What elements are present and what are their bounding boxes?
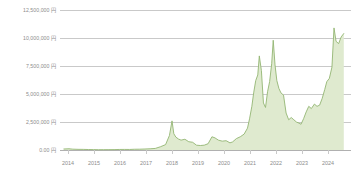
y-tick-label: 7,500,000 円 (0, 63, 56, 69)
x-tick (250, 150, 251, 154)
x-tick (198, 150, 199, 154)
x-tick-label: 2022 (264, 160, 288, 167)
x-tick-label: 2015 (82, 160, 106, 167)
y-tick-label: 10,000,000 円 (0, 35, 56, 41)
x-tick (68, 150, 69, 154)
y-tick-label: 5,000,000 円 (0, 91, 56, 97)
x-tick-label: 2020 (212, 160, 236, 167)
plot-area: 2014 2015 2016 2017 2018 2019 2020 2021 … (60, 0, 351, 173)
x-tick (146, 150, 147, 154)
y-tick-label: 12,500,000 円 (0, 7, 56, 13)
x-tick (302, 150, 303, 154)
x-tick (224, 150, 225, 154)
x-tick (276, 150, 277, 154)
x-tick (120, 150, 121, 154)
x-tick (172, 150, 173, 154)
x-tick-label: 2018 (160, 160, 184, 167)
x-tick-label: 2024 (316, 160, 340, 167)
x-tick-label: 2019 (186, 160, 210, 167)
y-tick-label: 2,500,000 円 (0, 119, 56, 125)
x-tick (328, 150, 329, 154)
x-tick-label: 2023 (290, 160, 314, 167)
x-tick-label: 2016 (108, 160, 132, 167)
x-tick-label: 2014 (56, 160, 80, 167)
x-tick-label: 2017 (134, 160, 158, 167)
series-area (60, 0, 351, 173)
y-tick-label: 0.00 円 (0, 147, 56, 153)
x-tick-label: 2021 (238, 160, 262, 167)
price-chart: 12,500,000 円 10,000,000 円 7,500,000 円 5,… (0, 0, 351, 173)
x-tick (94, 150, 95, 154)
